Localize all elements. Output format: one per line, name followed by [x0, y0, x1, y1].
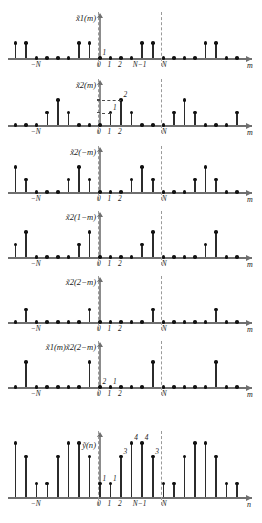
x-tick: 1 [108, 500, 112, 508]
stem [141, 167, 143, 192]
sample-dot [214, 455, 218, 459]
sample-dot [235, 482, 239, 486]
sample-dot [193, 111, 197, 115]
stem [110, 113, 112, 126]
sample-dot [151, 230, 155, 234]
x-tick: 0 [97, 500, 101, 508]
signal-label: x̃1(m) [52, 14, 96, 23]
panel-y: nỹ(n)113443−N012N−1N [0, 404, 262, 516]
sample-dot [35, 482, 39, 486]
stem [226, 484, 228, 498]
value-axis [99, 282, 101, 322]
sample-dot [109, 482, 113, 486]
signal-label: x̃2(1−m) [52, 213, 96, 222]
sample-dot [204, 441, 208, 445]
x-tick: 1 [108, 61, 112, 69]
sample-dot [88, 360, 92, 364]
sample-dot [235, 111, 239, 115]
stem [36, 484, 38, 498]
sample-dot [151, 308, 155, 312]
stem [163, 484, 165, 498]
amplitude-guide-tick [97, 99, 100, 100]
sample-dot [151, 178, 155, 182]
sample-dot [183, 190, 187, 194]
value-axis [99, 347, 101, 387]
x-tick: −N [31, 390, 41, 398]
sample-dot [172, 385, 176, 389]
sample-dot [214, 178, 218, 182]
stem [89, 310, 91, 323]
stem [184, 100, 186, 125]
x-tick: 0 [97, 390, 101, 398]
signal-label: x̃2(−m) [52, 148, 96, 157]
value-axis [99, 217, 101, 257]
stem [141, 443, 143, 497]
sample-dot [77, 41, 81, 45]
stem [68, 443, 70, 497]
stem [184, 457, 186, 498]
sample-dot [77, 165, 81, 169]
stem [120, 457, 122, 498]
stem [205, 43, 207, 58]
sample-dot [214, 41, 218, 45]
sample-dot [24, 455, 28, 459]
sample-dot [140, 41, 144, 45]
sample-dot [151, 455, 155, 459]
sample-dot [24, 308, 28, 312]
panel-x2-1-m: mx̃2(1−m)−N012N [0, 207, 262, 271]
x-axis-name: m [247, 390, 253, 399]
signal-label: x̃2(2−m) [52, 278, 96, 287]
sample-dot [214, 308, 218, 312]
stem [205, 167, 207, 192]
sample-dot [172, 56, 176, 60]
x-axis-name: m [247, 195, 253, 204]
stem [57, 100, 59, 125]
value-label: 1 [113, 104, 117, 112]
sample-dot [56, 455, 60, 459]
stem [25, 310, 27, 323]
x-tick: 2 [118, 325, 122, 333]
sample-dot [45, 111, 49, 115]
value-axis [99, 18, 101, 58]
x-tick: N [162, 195, 167, 203]
panel-product: mx̃1(m)x̃2(2−m)21−N012N [0, 337, 262, 401]
stem [141, 245, 143, 258]
stem [205, 443, 207, 497]
stem [215, 180, 217, 193]
x-axis-name: m [247, 128, 253, 137]
panel-x2-negm: mx̃2(−m)−N012N [0, 142, 262, 206]
sample-dot [56, 98, 60, 102]
sample-dot [56, 385, 60, 389]
sample-dot [67, 56, 71, 60]
value-label: 1 [103, 49, 107, 57]
sample-dot [14, 41, 18, 45]
stem [15, 245, 17, 258]
sample-dot [24, 230, 28, 234]
amplitude-guide [102, 100, 121, 101]
sample-dot [225, 482, 229, 486]
sample-dot [56, 56, 60, 60]
x-tick: 2 [118, 390, 122, 398]
stem [205, 245, 207, 258]
x-tick: N [162, 128, 167, 136]
sample-dot [119, 455, 123, 459]
signal-label: x̃1(m)x̃2(2−m) [28, 343, 96, 352]
x-tick: 0 [97, 195, 101, 203]
sample-dot [88, 308, 92, 312]
sample-dot [45, 56, 49, 60]
sample-dot [183, 320, 187, 324]
stem [68, 180, 70, 193]
sample-dot [45, 320, 49, 324]
stem [110, 484, 112, 498]
sample-dot [45, 190, 49, 194]
x-tick: 0 [97, 128, 101, 136]
sample-dot [172, 255, 176, 259]
sample-dot [140, 165, 144, 169]
panel-x2m: mx̃2(m)12−N012N [0, 75, 262, 139]
value-label: 1 [113, 475, 117, 483]
stem [131, 443, 133, 497]
value-axis [99, 152, 101, 192]
x-tick: 0 [97, 260, 101, 268]
sample-dot [67, 178, 71, 182]
stem [25, 180, 27, 193]
